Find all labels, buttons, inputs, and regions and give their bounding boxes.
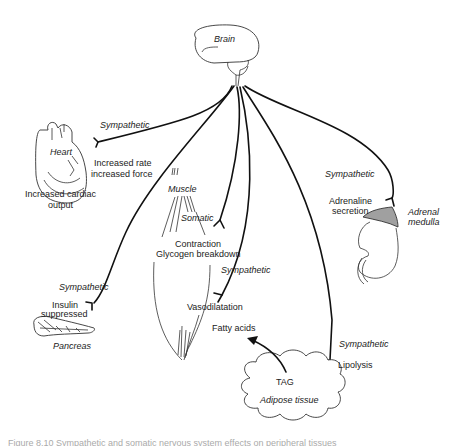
nerve-vessels <box>222 87 250 295</box>
brain-label: Brain <box>214 34 235 44</box>
pancreas-effect-line2: suppressed <box>41 309 88 319</box>
muscle-effect-line2: Glycogen breakdown <box>156 249 241 259</box>
adrenal-nerve-label: Sympathetic <box>325 169 375 179</box>
nerve-adipose <box>243 87 332 360</box>
heart-outcome-line2: output <box>48 200 74 210</box>
heart-outcome-line1: Increased cardiac <box>25 189 97 199</box>
heart-effect-line1: Increased rate <box>94 158 152 168</box>
figure-caption: Figure 8.10 Sympathetic and somatic nerv… <box>8 436 458 446</box>
adipose-label: Adipose tissue <box>259 395 319 405</box>
heart-effect-line2: increased force <box>91 169 153 179</box>
heart-label: Heart <box>50 147 73 157</box>
lipolysis-label: Lipolysis <box>338 360 373 370</box>
pancreas-illustration <box>34 316 95 336</box>
somatic-label: Somatic <box>181 213 214 223</box>
pancreas-label: Pancreas <box>53 341 92 351</box>
adipose-nerve-label: Sympathetic <box>339 339 389 349</box>
vessel-nerve-label: Sympathetic <box>221 265 271 275</box>
fatty-acids-label: Fatty acids <box>212 323 256 333</box>
adrenal-effect-line2: secretion <box>332 206 369 216</box>
tag-label: TAG <box>276 377 294 387</box>
muscle-illustration <box>154 168 210 360</box>
muscle-label: Muscle <box>168 184 197 194</box>
nerve-adrenal <box>245 86 393 198</box>
adrenal-illustration <box>358 207 398 284</box>
vasodilatation-label: Vasodilatation <box>187 302 243 312</box>
pancreas-nerve-label: Sympathetic <box>59 282 109 292</box>
nerve-muscle-somatic <box>220 87 239 220</box>
nerve-pancreas <box>94 86 234 303</box>
brain-illustration: Brain <box>195 25 259 86</box>
adrenal-label-line2: medulla <box>408 217 440 227</box>
heart-nerve-label: Sympathetic <box>100 120 150 130</box>
adrenal-effect-line1: Adrenaline <box>329 196 372 206</box>
muscle-effect-line1: Contraction <box>175 239 221 249</box>
adrenal-label-line1: Adrenal <box>407 207 440 217</box>
